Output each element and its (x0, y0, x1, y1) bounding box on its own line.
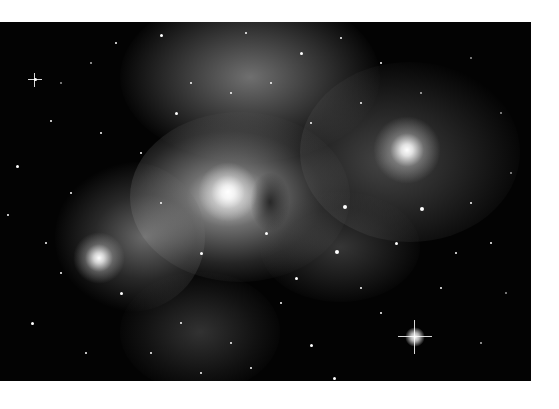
nebula-cloud-upper (120, 22, 380, 162)
nebula-cloud-mid-right (260, 192, 420, 302)
right-glow-star (373, 116, 441, 184)
bottom-spike-star (405, 327, 425, 347)
left-glow-star (73, 232, 125, 284)
center-core-glow (198, 162, 258, 222)
star-spike-horizontal (398, 336, 432, 337)
star-spike-vertical (414, 320, 415, 354)
nebula-cloud-left-arm (55, 162, 205, 312)
nebula-cloud-lower (120, 272, 280, 381)
nebula-photo (0, 22, 531, 381)
